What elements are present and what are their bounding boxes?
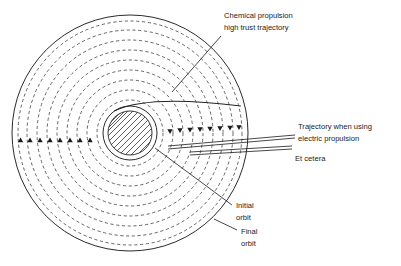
spiral-arrow bbox=[217, 126, 222, 131]
label-final-orbit-line1: Final bbox=[241, 227, 258, 236]
label-initial-orbit-line2: orbit bbox=[236, 213, 252, 222]
spiral-arrow bbox=[67, 138, 72, 143]
label-initial-orbit-line1: Initial bbox=[236, 201, 254, 210]
spiral-arrow bbox=[197, 127, 202, 132]
label-electric-propulsion-line2: electric propulsion bbox=[298, 134, 359, 143]
spiral-arrow bbox=[37, 138, 42, 143]
leader-et-cetera bbox=[190, 149, 292, 155]
leader-final-orbit bbox=[214, 219, 237, 230]
spiral-arrow-left-group bbox=[18, 138, 93, 143]
spiral-arrow bbox=[27, 138, 32, 143]
spiral-arrow bbox=[47, 138, 52, 143]
label-chemical-propulsion-line2: high trust trajectory bbox=[224, 23, 289, 32]
orbit-transfer-diagram: Chemical propulsion high trust trajector… bbox=[0, 0, 401, 266]
spiral-arrow bbox=[177, 128, 182, 133]
diagram-canvas: Chemical propulsion high trust trajector… bbox=[0, 0, 401, 266]
label-chemical-propulsion-line1: Chemical propulsion bbox=[224, 11, 293, 20]
spiral-arrow bbox=[227, 126, 232, 131]
central-body-outline bbox=[108, 111, 152, 155]
leader-electric-propulsion bbox=[168, 135, 295, 146]
spiral-arrow-right-group bbox=[167, 125, 241, 134]
leader-chemical-propulsion bbox=[172, 36, 221, 92]
label-electric-propulsion-line1: Trajectory when using bbox=[298, 122, 372, 131]
spiral-arrow bbox=[57, 138, 62, 143]
spiral-arrow bbox=[187, 128, 192, 133]
label-final-orbit-line2: orbit bbox=[241, 239, 257, 248]
spiral-arrow bbox=[167, 129, 172, 134]
spiral-arrow bbox=[87, 138, 92, 143]
label-et-cetera: Et cetera bbox=[295, 154, 326, 163]
spiral-arrow bbox=[77, 138, 82, 143]
spiral-arrow bbox=[236, 125, 241, 130]
spiral-arrow bbox=[207, 127, 212, 132]
